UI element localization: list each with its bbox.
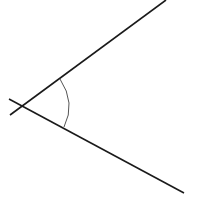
lower-ray-line bbox=[9, 99, 184, 193]
angle-diagram bbox=[0, 0, 213, 203]
angle-arc bbox=[60, 79, 69, 127]
upper-ray-line bbox=[10, 0, 166, 115]
